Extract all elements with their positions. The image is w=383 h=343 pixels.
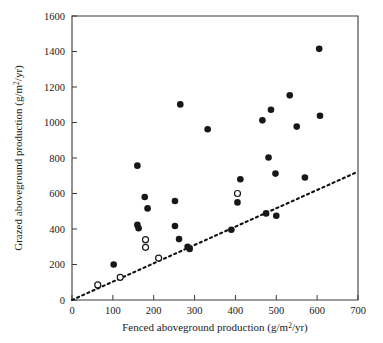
data-point-filled <box>186 246 193 253</box>
x-tick-label: 300 <box>187 305 203 316</box>
data-point-filled <box>172 198 179 205</box>
data-point-open <box>143 237 149 243</box>
x-tick-label: 700 <box>350 305 366 316</box>
data-point-filled <box>302 174 309 181</box>
y-tick-label: 1400 <box>44 46 65 57</box>
y-tick-label: 800 <box>49 153 65 164</box>
data-point-filled <box>172 223 179 230</box>
scatter-chart-figure: 0100200300400500600700 02004006008001000… <box>0 0 383 343</box>
x-tick-label: 0 <box>69 305 74 316</box>
y-axis-title: Grazed aboveground production (g/m2/yr) <box>12 65 25 251</box>
data-point-filled <box>228 226 235 233</box>
data-point-filled <box>204 126 211 133</box>
data-point-filled <box>234 199 241 206</box>
y-tick-label: 200 <box>49 259 65 270</box>
data-point-filled <box>144 205 151 212</box>
x-axis-title: Fenced aboveground production (g/m2/yr) <box>122 321 308 334</box>
data-point-open <box>234 191 240 197</box>
data-point-filled <box>176 236 183 243</box>
y-axis-title-text: Grazed aboveground production (g/m2/yr) <box>12 65 25 251</box>
y-tick-label: 0 <box>60 295 65 306</box>
data-point-filled <box>135 225 142 232</box>
data-point-filled <box>265 154 272 161</box>
data-point-filled <box>293 123 300 130</box>
data-point-filled <box>273 212 280 219</box>
y-tick-label: 1200 <box>44 82 65 93</box>
x-axis-title-text: Fenced aboveground production (g/m2/yr) <box>122 321 308 334</box>
data-point-filled <box>286 92 293 99</box>
chart-canvas: 0100200300400500600700 02004006008001000… <box>0 0 383 343</box>
data-point-filled <box>259 117 266 124</box>
y-tick-label: 1600 <box>44 11 65 22</box>
data-point-filled <box>268 106 275 113</box>
x-tick-label: 400 <box>228 305 244 316</box>
data-point-filled <box>263 210 270 217</box>
x-tick-label: 100 <box>105 305 121 316</box>
data-point-filled <box>141 194 148 201</box>
data-point-filled <box>177 101 184 108</box>
data-point-open <box>156 255 162 261</box>
data-point-filled <box>272 170 279 177</box>
data-point-filled <box>110 261 117 268</box>
data-point-filled <box>316 46 323 53</box>
x-tick-label: 600 <box>309 305 325 316</box>
x-tick-label: 500 <box>268 305 284 316</box>
y-tick-label: 400 <box>49 224 65 235</box>
data-point-filled <box>237 176 244 183</box>
data-point-open <box>95 282 101 288</box>
data-point-open <box>143 244 149 250</box>
y-tick-label: 1000 <box>44 117 65 128</box>
y-tick-label: 600 <box>49 188 65 199</box>
data-point-filled <box>134 162 141 169</box>
data-point-filled <box>317 112 324 119</box>
x-tick-label: 200 <box>146 305 162 316</box>
data-point-open <box>117 274 123 280</box>
